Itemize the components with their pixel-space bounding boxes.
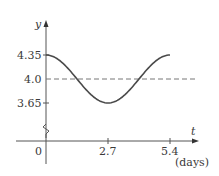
x-tick-label-0: 0 xyxy=(35,145,42,158)
y-tick-label-4-35: 4.35 xyxy=(17,49,42,62)
x-tick-label-2-7: 2.7 xyxy=(99,145,117,158)
chart: y 4.35 4.0 3.65 0 2.7 5.4 t (days) xyxy=(0,0,219,176)
y-axis-label: y xyxy=(34,18,42,31)
x-axis-arrow-icon xyxy=(192,139,199,144)
y-tick-label-3-65: 3.65 xyxy=(17,97,42,110)
x-axis-unit: (days) xyxy=(175,156,209,169)
y-tick-label-4-0: 4.0 xyxy=(24,73,42,86)
x-axis-label: t xyxy=(191,125,196,138)
y-axis-arrow-icon xyxy=(44,20,49,27)
